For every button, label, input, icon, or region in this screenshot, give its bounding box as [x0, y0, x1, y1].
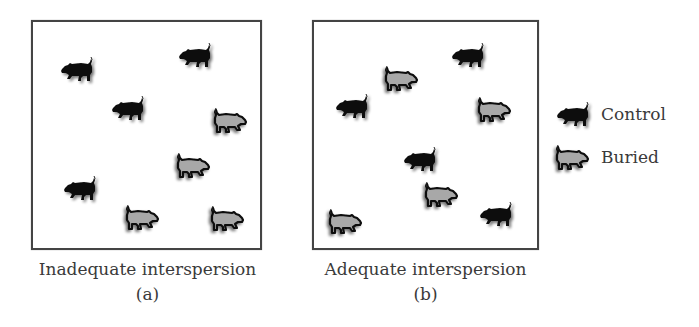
control-pig-icon	[478, 202, 514, 228]
control-pig-icon	[110, 96, 146, 122]
control-pig-icon	[334, 94, 370, 120]
panel-a-caption: Inadequate interspersion	[32, 259, 263, 279]
buried-pig-icon	[175, 153, 211, 179]
panel-a-label: (a)	[32, 284, 263, 304]
buried-pig-icon	[212, 108, 248, 134]
legend-label-buried: Buried	[601, 147, 659, 167]
buried-pig-icon	[383, 66, 419, 92]
legend-control-pig-icon	[555, 102, 591, 128]
control-pig-icon	[177, 43, 213, 69]
legend-label-control: Control	[601, 104, 666, 124]
buried-pig-icon	[209, 206, 245, 232]
panel-b-caption: Adequate interspersion	[312, 259, 539, 279]
control-pig-icon	[59, 57, 95, 83]
buried-pig-icon	[476, 97, 512, 123]
legend-buried-pig-icon	[554, 145, 590, 171]
control-pig-icon	[450, 43, 486, 69]
panel-b-label: (b)	[312, 284, 539, 304]
buried-pig-icon	[423, 182, 459, 208]
buried-pig-icon	[327, 209, 363, 235]
control-pig-icon	[62, 176, 98, 202]
control-pig-icon	[402, 147, 438, 173]
buried-pig-icon	[124, 205, 160, 231]
